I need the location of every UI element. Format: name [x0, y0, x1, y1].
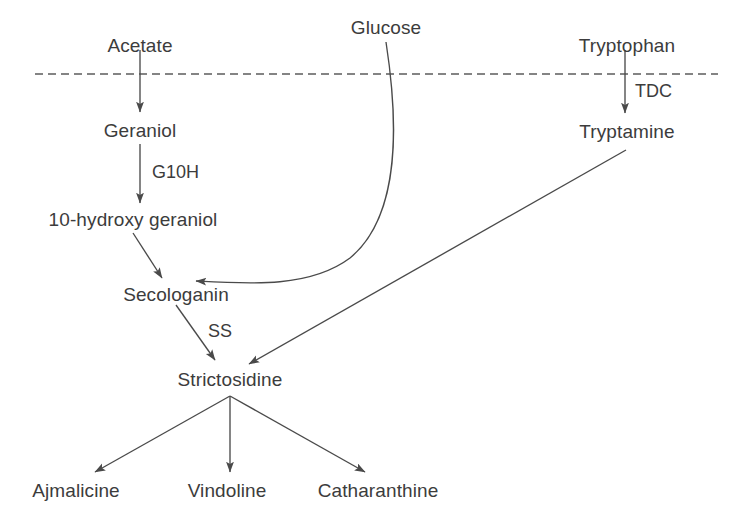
enzyme-label-g10h: G10H: [152, 163, 199, 181]
edge-hydroxygeraniol-to-secologanin: [133, 233, 162, 278]
edge-glucose-to-secologanin: [196, 42, 394, 283]
node-tryptamine: Tryptamine: [579, 122, 674, 141]
enzyme-label-ss: SS: [208, 322, 232, 340]
node-strictosidine: Strictosidine: [178, 370, 283, 389]
edge-strictosidine-to-catharanthine: [230, 396, 365, 472]
node-acetate: Acetate: [107, 36, 172, 55]
node-geraniol: Geraniol: [104, 121, 177, 140]
node-glucose: Glucose: [351, 18, 421, 37]
node-catharanthine: Catharanthine: [318, 481, 439, 500]
node-tryptophan: Tryptophan: [579, 36, 675, 55]
node-ajmalicine: Ajmalicine: [32, 481, 120, 500]
enzyme-label-tdc: TDC: [635, 82, 672, 100]
node-hydroxy-geraniol: 10-hydroxy geraniol: [49, 210, 218, 229]
pathway-diagram: Acetate Glucose Tryptophan Geraniol Tryp…: [0, 0, 740, 528]
node-secologanin: Secologanin: [123, 285, 229, 304]
edge-tryptamine-to-strictosidine: [249, 150, 626, 364]
node-vindoline: Vindoline: [188, 481, 267, 500]
edge-strictosidine-to-ajmalicine: [95, 396, 230, 472]
pathway-edges-canvas: [0, 0, 740, 528]
